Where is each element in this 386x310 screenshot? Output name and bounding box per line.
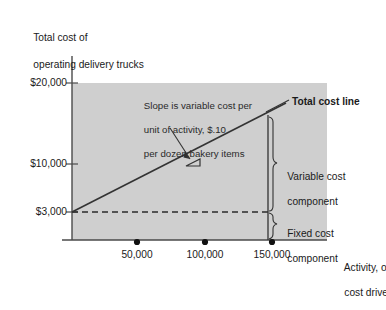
slope-annotation-line1: Slope is variable cost per	[144, 100, 252, 111]
x-axis-title: Activity, or cost driver (dozens of bake…	[333, 249, 386, 310]
variable-cost-label-line1: Variable cost	[287, 171, 345, 182]
slope-annotation-line3: per dozen bakery items	[144, 148, 245, 159]
slope-annotation: Slope is variable cost per unit of activ…	[133, 88, 252, 172]
total-cost-line-label: Total cost line	[292, 96, 360, 109]
fixed-cost-label-line2: component	[287, 253, 337, 264]
x-tick-label-50000: 50,000	[102, 249, 172, 262]
fixed-cost-label-line1: Fixed cost	[287, 228, 333, 239]
y-tick-label-20000: $20,000	[5, 77, 67, 90]
x-tick-dot-100000	[202, 239, 208, 245]
x-axis-title-line2: cost driver	[344, 287, 386, 298]
y-axis-title: Total cost of operating delivery trucks	[22, 17, 144, 85]
slope-annotation-line2: unit of activity, $.10	[144, 124, 226, 135]
fixed-cost-component-label: Fixed cost component	[276, 215, 338, 278]
y-axis-title-line1: Total cost of	[33, 32, 87, 43]
x-axis-title-line1: Activity, or	[344, 262, 386, 273]
x-tick-dot-50000	[134, 239, 140, 245]
y-axis-title-line2: operating delivery trucks	[33, 59, 143, 70]
variable-cost-label-line2: component	[287, 196, 337, 207]
x-tick-label-100000: 100,000	[170, 249, 240, 262]
y-tick-label-3000: $3,000	[5, 206, 67, 219]
x-tick-dot-150000	[269, 239, 275, 245]
y-tick-label-10000: $10,000	[5, 158, 67, 171]
variable-cost-component-label: Variable cost component	[276, 158, 345, 221]
cost-behavior-chart: Total cost of operating delivery trucks …	[0, 0, 386, 310]
